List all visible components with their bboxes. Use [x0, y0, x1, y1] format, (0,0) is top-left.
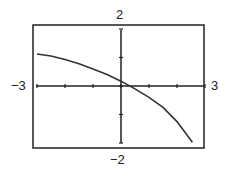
data-line [37, 54, 192, 142]
plot [0, 0, 233, 178]
